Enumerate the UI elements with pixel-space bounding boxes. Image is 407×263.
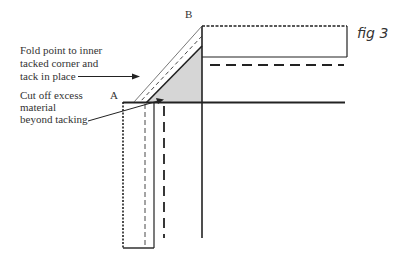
cut-note-line-3: beyond tacking (20, 113, 88, 125)
fold-note-line-3: tack in place (20, 70, 76, 82)
cut-note-line-2: material (20, 101, 56, 113)
point-b-label: B (185, 8, 192, 20)
cut-note-line-1: Cut off excess (20, 89, 83, 101)
point-a-label: A (110, 89, 118, 101)
fold-arrow-head (132, 74, 140, 80)
figure-title: fig 3 (357, 25, 388, 41)
fold-note-line-1: Fold point to inner (20, 44, 103, 56)
fig-3-diagram: B A Fold point to inner tacked corner an… (0, 0, 407, 263)
fold-note-line-2: tacked corner and (20, 57, 99, 69)
